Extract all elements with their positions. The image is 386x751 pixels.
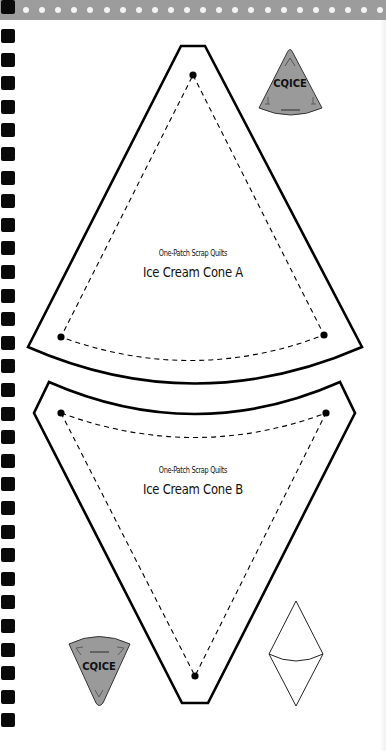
seam-dot-b-right — [322, 409, 329, 416]
badge-bottom-text: CQICE — [82, 661, 116, 672]
template-a-seam-line — [61, 75, 324, 361]
template-b-title: Ice Cream Cone B — [39, 481, 348, 497]
badge-bottom-icon: CQICE — [69, 637, 130, 706]
badge-top-text: CQICE — [273, 78, 307, 89]
seam-dot-a-right — [320, 331, 327, 338]
seam-dot-b-left — [57, 409, 64, 416]
template-a-title: Ice Cream Cone A — [39, 264, 348, 280]
seam-dot-a-top — [189, 71, 196, 78]
template-sheet: CQICE CQICE — [0, 0, 386, 751]
badge-top-icon: CQICE — [259, 50, 322, 116]
seam-dot-a-left — [57, 333, 64, 340]
template-a-subtitle: One-Patch Scrap Quilts — [35, 249, 352, 258]
template-b-subtitle: One-Patch Scrap Quilts — [35, 466, 352, 475]
seam-dot-b-bottom — [191, 672, 198, 679]
assembly-diagram-icon — [269, 601, 323, 706]
